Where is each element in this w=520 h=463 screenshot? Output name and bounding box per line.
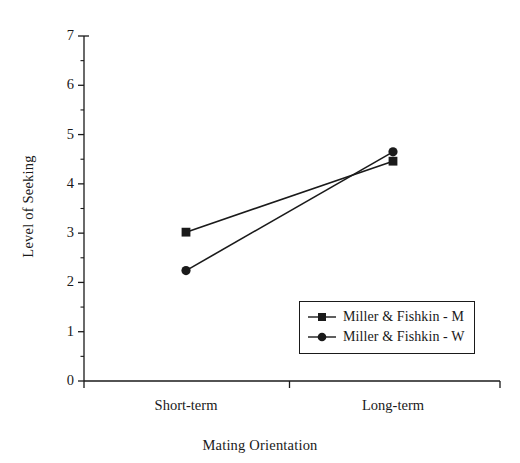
plot-area [0, 0, 520, 463]
y-tick-label: 6 [48, 77, 74, 92]
line-chart-figure: 01234567 Short-termLong-term Level of Se… [0, 0, 520, 463]
x-tick-label: Long-term [362, 398, 424, 413]
y-tick-label: 4 [48, 176, 74, 191]
legend-label-m: Miller & Fishkin - M [343, 309, 464, 325]
legend-item-miller-fishkin-w[interactable]: Miller & Fishkin - W [307, 327, 465, 347]
legend-label-w: Miller & Fishkin - W [343, 329, 465, 345]
data-point-circle [388, 147, 397, 156]
data-series-layer [181, 147, 397, 275]
chart-legend: Miller & Fishkin - M Miller & Fishkin - … [299, 301, 475, 354]
x-axis-title: Mating Orientation [0, 437, 520, 454]
data-point-square [389, 157, 398, 166]
legend-square-marker-icon [307, 310, 337, 324]
y-tick-label: 2 [48, 274, 74, 289]
y-tick-label: 3 [48, 225, 74, 240]
legend-circle-marker-icon [307, 330, 337, 344]
y-tick-label: 7 [48, 28, 74, 43]
y-tick-label: 0 [48, 373, 74, 388]
legend-item-miller-fishkin-m[interactable]: Miller & Fishkin - M [307, 307, 465, 327]
data-point-circle [181, 266, 190, 275]
y-tick-label: 1 [48, 324, 74, 339]
x-tick-label: Short-term [155, 398, 218, 413]
y-axis-title: Level of Seeking [20, 117, 37, 297]
data-point-square [182, 228, 191, 237]
y-tick-label: 5 [48, 127, 74, 142]
